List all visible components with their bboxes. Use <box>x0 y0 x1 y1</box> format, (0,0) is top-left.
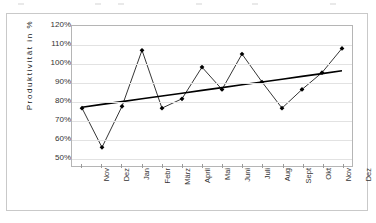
x-tick-mark <box>202 164 203 168</box>
y-tick-label: 90% <box>37 77 71 87</box>
x-tick-label: Juni <box>242 168 253 208</box>
x-tick-label: Dez <box>121 168 132 208</box>
gridline <box>72 83 352 84</box>
gridline <box>72 159 352 160</box>
y-tick-label: 120% <box>37 20 71 30</box>
x-tick-mark <box>101 164 102 168</box>
x-tick-mark <box>262 164 263 168</box>
x-tick-label: Aug <box>282 168 293 208</box>
data-point-marker <box>140 48 145 53</box>
x-tick-mark <box>283 164 284 168</box>
x-tick-mark <box>162 164 163 168</box>
gridline <box>72 102 352 103</box>
chart-screenshot: Produktivität in % 120%110%100%90%80%70%… <box>0 0 376 223</box>
x-axis-tick-labels: NovDezJanFebrMärzAprilMaiJuniJuliAugSept… <box>71 168 353 212</box>
x-tick-label: Nov <box>343 168 354 208</box>
plot-svg <box>72 26 352 166</box>
x-tick-label: Nov <box>101 168 112 208</box>
x-tick-label: Mai <box>222 168 233 208</box>
gridline <box>72 64 352 65</box>
x-tick-label: Okt <box>323 168 334 208</box>
data-point-marker <box>180 96 185 101</box>
gridline <box>72 140 352 141</box>
x-tick-mark <box>81 164 82 168</box>
x-tick-mark <box>343 164 344 168</box>
scan-artifacts <box>0 0 376 12</box>
data-point-marker <box>240 52 245 57</box>
y-tick-label: 100% <box>37 58 71 68</box>
y-tick-label: 50% <box>37 153 71 163</box>
x-tick-label: Sept <box>303 168 314 208</box>
x-tick-mark <box>222 164 223 168</box>
y-axis-title: Produktivität in % <box>23 0 37 140</box>
data-point-marker <box>160 106 165 111</box>
gridline <box>72 121 352 122</box>
y-tick-label: 60% <box>37 134 71 144</box>
x-tick-label: Jan <box>141 168 152 208</box>
y-tick-label: 80% <box>37 96 71 106</box>
x-tick-mark <box>242 164 243 168</box>
x-tick-mark <box>121 164 122 168</box>
x-tick-label: Dez <box>363 168 374 208</box>
x-tick-mark <box>323 164 324 168</box>
y-tick-label: 70% <box>37 115 71 125</box>
x-tick-mark <box>303 164 304 168</box>
data-point-marker <box>100 145 105 150</box>
y-tick-label: 110% <box>37 39 71 49</box>
plot-area <box>71 25 353 167</box>
x-tick-mark <box>142 164 143 168</box>
x-tick-label: März <box>182 168 193 208</box>
data-point-marker <box>120 104 125 109</box>
y-axis-tick-labels: 120%110%100%90%80%70%60%50% <box>37 14 71 212</box>
chart-frame: Produktivität in % 120%110%100%90%80%70%… <box>6 13 368 211</box>
x-tick-mark <box>182 164 183 168</box>
x-tick-label: April <box>202 168 213 208</box>
x-tick-label: Juli <box>262 168 273 208</box>
gridline <box>72 45 352 46</box>
x-tick-label: Febr <box>162 168 173 208</box>
